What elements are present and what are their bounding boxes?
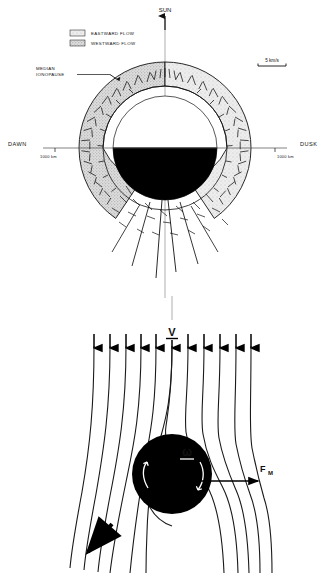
sun-label: SUN [159,7,172,13]
streamline [70,346,94,568]
legend-swatch-eastward [70,30,85,36]
flow-legend: EASTWARD FLOW WESTWARD FLOW [70,30,136,46]
wake-deflection-arrow [88,524,112,552]
dawn-label: DAWN [8,141,27,147]
radius-label-right: 1000 km [277,154,294,159]
magnus-force-panel: V [0,296,330,575]
figure-root: SUN EASTWARD FLOW WESTWARD FLOW [0,0,330,575]
radius-label-left: 1000 km [40,154,57,159]
streamline [84,346,110,570]
ionosphere-flow-svg: SUN EASTWARD FLOW WESTWARD FLOW [0,0,330,300]
ionosphere-flow-map-panel: SUN EASTWARD FLOW WESTWARD FLOW [0,0,330,300]
dusk-label: DUSK [300,141,318,147]
flow-velocity-label: V [168,326,176,338]
legend-label-westward: WESTWARD FLOW [91,41,136,46]
magnus-force-label: F [260,464,266,474]
velocity-scale-bar: 5 km/s [258,58,286,66]
angular-velocity-label: ω [182,445,192,459]
planet-dayside [113,96,217,148]
median-ionopause-annotation: MEDIAN IONOPAUSE [36,66,118,80]
median-ionopause-label-line2: IONOPAUSE [36,72,64,77]
legend-swatch-westward [70,40,85,46]
streamline [250,346,272,573]
legend-label-eastward: EASTWARD FLOW [91,31,135,36]
streamline [218,346,249,573]
scale-bar-label: 5 km/s [265,58,279,63]
median-ionopause-label-line1: MEDIAN [36,66,55,71]
magnus-force-svg: V [0,296,330,575]
magnus-force-subscript: M [268,470,273,476]
